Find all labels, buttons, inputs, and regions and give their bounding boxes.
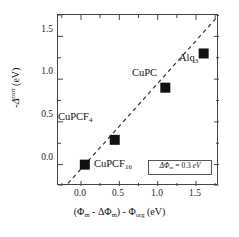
legend-delta-phi: ΔΦ (159, 161, 169, 170)
y-axis-minus-sign: - (10, 104, 21, 107)
alq3-label-text: Alq (179, 52, 195, 63)
cupcf16-label-subscript: 16 (125, 163, 132, 170)
cupcf16-label: CuPCF16 (94, 158, 132, 172)
y-axis-delta-symbol: Δ (10, 98, 21, 104)
cupcf4-label-subscript: 4 (89, 116, 92, 123)
alq3-label-subscript: 3 (195, 57, 198, 64)
x-tick-label: 0.0 (74, 188, 86, 198)
y-tick-label: 1.5 (41, 24, 53, 34)
legend-unit: eV (193, 161, 201, 170)
cupc-label: CuPC (132, 67, 157, 78)
cupcf16-label-text: CuPCF (94, 158, 125, 169)
x-axis-tick-labels: 0.0 0.5 1.0 1.5 (0, 188, 239, 202)
y-axis-title: -Δcorr (eV) (9, 34, 20, 142)
x-tick-label: 0.5 (112, 188, 124, 198)
scatter-plot-figure: 0.0 0.5 1.0 1.5 0.0 0.5 1.0 1.5 -Δcorr (… (0, 0, 239, 237)
x-axis-units: (eV) (144, 206, 165, 217)
y-axis-units: (eV) (10, 68, 21, 89)
x-tick-label: 1.0 (151, 188, 163, 198)
x-tick-label: 1.5 (189, 188, 201, 198)
data-point-marker (80, 160, 90, 170)
alq3-label: Alq3 (179, 52, 198, 66)
y-axis-superscript: corr (9, 88, 16, 98)
x-axis-title: (Φm - ΔΦm) - Φorg (eV) (0, 206, 239, 218)
x-axis-delta-phi: ΔΦ (98, 206, 112, 217)
y-tick-label: 0.5 (41, 109, 53, 119)
data-point-marker (110, 135, 120, 145)
x-axis-minus-1: - (90, 206, 98, 217)
data-point-marker (160, 83, 170, 93)
legend-equals-value: = 0.3 (173, 161, 192, 170)
data-point-marker (199, 48, 209, 58)
legend-text: ΔΦm = 0.3 eV (159, 162, 200, 172)
y-tick-label: 0.0 (41, 152, 53, 162)
legend-box: ΔΦm = 0.3 eV (148, 160, 212, 175)
x-axis-phi-org: Φ (128, 206, 135, 217)
cupcf4-label: CuPCF4 (58, 111, 92, 125)
cupc-label-text: CuPC (132, 67, 157, 78)
cupcf4-label-text: CuPCF (58, 111, 89, 122)
y-tick-label: 1.0 (41, 66, 53, 76)
